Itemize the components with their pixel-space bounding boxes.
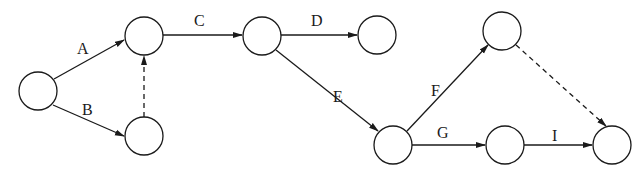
node-after-g: [486, 126, 524, 164]
node-end: [593, 126, 631, 164]
node-start: [19, 72, 57, 110]
node-after-a: [125, 17, 163, 55]
node-after-e: [374, 126, 412, 164]
node-after-b: [125, 117, 163, 155]
node-after-d: [358, 16, 396, 54]
edge-label-c: C: [194, 12, 205, 29]
edge-e-arrow: [276, 50, 378, 131]
edge-a-arrow: [54, 40, 124, 79]
edge-label-g: G: [437, 124, 449, 141]
edge-label-i: I: [552, 127, 557, 144]
node-after-f: [483, 12, 521, 50]
edge-label-a: A: [77, 40, 89, 57]
edge-label-f: F: [431, 82, 440, 99]
node-after-c: [243, 17, 281, 55]
edge-label-b: B: [82, 101, 93, 118]
diagram-svg: A B C D E F G I: [0, 0, 640, 175]
edge-label-d: D: [311, 12, 323, 29]
edge-f-arrow: [407, 45, 488, 131]
network-diagram: A B C D E F G I: [0, 0, 640, 175]
dummy-edge-f-to-end-arrow: [516, 45, 606, 126]
edge-label-e: E: [333, 88, 343, 105]
